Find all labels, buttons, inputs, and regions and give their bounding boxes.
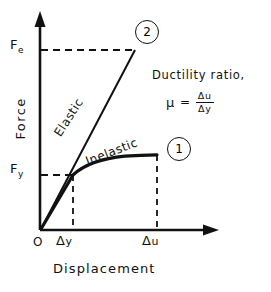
x-tick-label-delta-u: Δu (142, 234, 159, 247)
y-tick-label-fe-base: F (10, 37, 18, 52)
callout-marker-2: 2 (135, 20, 159, 44)
delta-fraction: Δu Δy (196, 91, 214, 114)
ductility-ratio-title: Ductility ratio, (152, 68, 267, 82)
x-tick-label-delta-y-base: Δ (56, 233, 66, 248)
y-axis (35, 11, 46, 230)
x-tick-label-delta-y: Δy (56, 234, 73, 247)
y-tick-label-fy-base: F (10, 161, 18, 176)
y-axis-title: Force (14, 92, 27, 146)
y-tick-label-fy: Fy (10, 162, 23, 179)
ductility-ratio-note: Ductility ratio, μ = Δu Δy (152, 68, 267, 114)
x-axis-title: Displacement (53, 262, 156, 275)
x-tick-label-delta-u-sub: u (152, 235, 160, 248)
callout-marker-1: 1 (167, 137, 191, 161)
y-tick-label-fe-sub: e (18, 45, 24, 55)
ductility-ratio-equation: μ = Δu Δy (166, 91, 267, 114)
y-tick-label-fy-sub: y (18, 169, 23, 179)
fraction-denominator: Δy (198, 103, 212, 114)
y-tick-label-fe: Fe (10, 38, 24, 55)
fraction-numerator: Δu (196, 91, 214, 103)
x-tick-label-delta-u-base: Δ (142, 233, 152, 248)
equals-sign: = (180, 95, 191, 109)
x-tick-label-delta-y-sub: y (66, 235, 73, 248)
force-displacement-figure: Fe Fy O Δy Δu Force Displacement Elastic… (0, 0, 271, 292)
inelastic-curve (41, 155, 157, 229)
mu-symbol: μ (166, 95, 175, 110)
origin-label: O (33, 236, 43, 248)
